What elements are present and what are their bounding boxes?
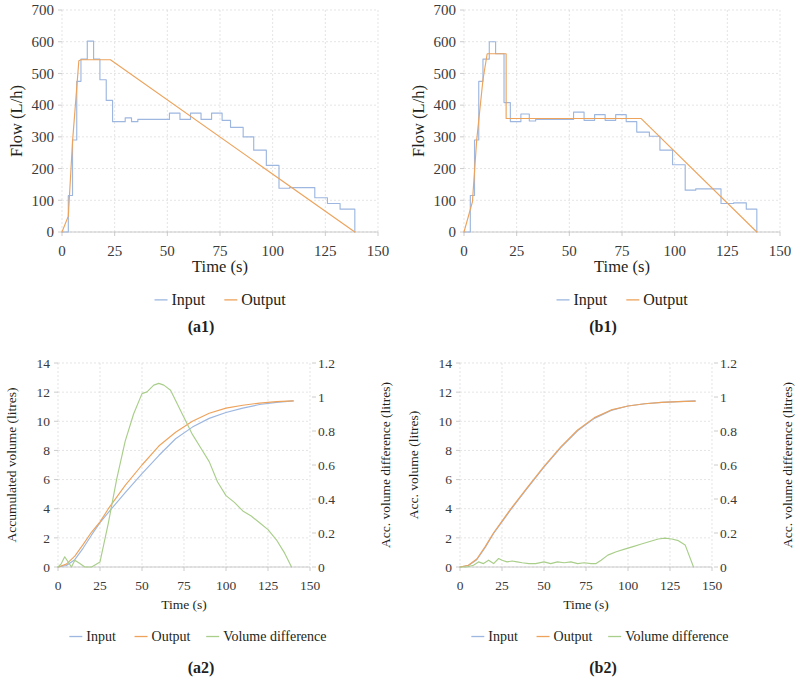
y-tick-label-left: 300 [434, 129, 457, 145]
x-tick-label: 125 [660, 578, 681, 593]
y-tick-label-left: 700 [32, 2, 55, 18]
y-tick-label-left: 4 [43, 501, 50, 516]
panel-caption-b1: (b1) [402, 318, 804, 336]
series-line-volume-difference [460, 538, 694, 567]
x-tick-label: 0 [457, 578, 464, 593]
y-tick-label-right: 0.4 [318, 492, 335, 507]
y-tick-label-left: 2 [43, 531, 50, 546]
x-tick-label: 125 [716, 243, 739, 259]
figure-four-panel: 01002003004005006007000255075100125150Ti… [0, 0, 804, 682]
series-line-input [58, 401, 293, 567]
legend-label-input: Input [172, 291, 206, 309]
legend-label-volume-difference: Volume difference [625, 629, 728, 644]
y-tick-label-right: 0.6 [720, 458, 737, 473]
y-axis-title-right: Acc. volume difference (litres) [780, 382, 795, 548]
x-tick-label: 50 [135, 578, 149, 593]
legend-a1: InputOutput [155, 291, 287, 309]
y-tick-label-left: 8 [445, 443, 452, 458]
y-tick-label-right: 0.2 [318, 526, 335, 541]
y-tick-label-right: 0.6 [318, 458, 335, 473]
y-tick-label-left: 400 [434, 97, 457, 113]
y-tick-label-left: 600 [434, 34, 457, 50]
y-tick-label-left: 14 [439, 356, 453, 371]
y-tick-label-right: 0.8 [720, 424, 737, 439]
legend-label-output: Output [554, 629, 593, 644]
chart-b2: 02468101214025507510012515000.20.40.60.8… [402, 341, 804, 659]
y-tick-label-left: 0 [43, 560, 50, 575]
legend-label-input: Input [488, 629, 518, 644]
y-tick-label-left: 400 [32, 97, 55, 113]
x-axis-title: Time (s) [563, 597, 609, 612]
y-axis-title-left: Accumulated volume (litres) [4, 387, 19, 542]
x-tick-label: 100 [618, 578, 639, 593]
y-tick-label-left: 500 [434, 66, 457, 82]
panel-a2: 02468101214025507510012515000.20.40.60.8… [0, 341, 402, 682]
y-tick-label-left: 100 [434, 193, 457, 209]
legend-label-output: Output [643, 291, 688, 309]
y-tick-label-right: 0.8 [318, 424, 335, 439]
y-tick-label-left: 8 [43, 443, 50, 458]
chart-a2: 02468101214025507510012515000.20.40.60.8… [0, 341, 402, 659]
y-tick-label-left: 700 [434, 2, 457, 18]
y-tick-label-left: 500 [32, 66, 55, 82]
y-tick-label-left: 4 [445, 501, 452, 516]
series-line-input [460, 401, 695, 567]
y-tick-label-left: 12 [439, 385, 453, 400]
y-tick-label-left: 6 [445, 472, 452, 487]
y-tick-label-right: 1 [318, 390, 325, 405]
x-axis-title: Time (s) [192, 257, 248, 276]
series-line-output [460, 401, 695, 567]
panel-a1: 01002003004005006007000255075100125150Ti… [0, 0, 402, 341]
legend-label-output: Output [241, 291, 286, 309]
x-tick-label: 100 [663, 243, 686, 259]
y-tick-label-right: 1.2 [720, 356, 737, 371]
x-axis-title: Time (s) [161, 597, 207, 612]
y-tick-label-right: 0.4 [720, 492, 737, 507]
y-tick-label-left: 10 [37, 414, 51, 429]
y-axis-title-left: Flow (L/h) [7, 85, 26, 157]
x-tick-label: 0 [55, 578, 62, 593]
chart-a1: 01002003004005006007000255075100125150Ti… [0, 0, 402, 318]
y-tick-label-left: 0 [47, 224, 55, 240]
legend-b1: InputOutput [557, 291, 689, 309]
y-tick-label-right: 1.2 [318, 356, 335, 371]
x-tick-label: 75 [177, 578, 191, 593]
y-tick-label-left: 10 [439, 414, 453, 429]
x-tick-label: 25 [495, 578, 509, 593]
y-tick-label-left: 0 [449, 224, 457, 240]
y-tick-label-right: 1 [720, 390, 727, 405]
legend-label-input: Input [86, 629, 116, 644]
x-tick-label: 0 [460, 243, 468, 259]
legend-b2: InputOutputVolume difference [471, 629, 728, 644]
x-tick-label: 25 [107, 243, 122, 259]
y-tick-label-right: 0.2 [720, 526, 737, 541]
x-axis-title: Time (s) [594, 257, 650, 276]
y-axis-title-right: Acc. volume difference (litres) [378, 382, 393, 548]
legend-label-volume-difference: Volume difference [223, 629, 326, 644]
x-tick-label: 125 [314, 243, 337, 259]
panel-caption-a1: (a1) [0, 318, 402, 336]
x-tick-label: 150 [300, 578, 321, 593]
y-tick-label-left: 100 [32, 193, 55, 209]
y-tick-label-left: 0 [445, 560, 452, 575]
panel-caption-a2: (a2) [0, 659, 402, 677]
panel-b2: 02468101214025507510012515000.20.40.60.8… [402, 341, 804, 682]
y-tick-label-left: 2 [445, 531, 452, 546]
x-tick-label: 150 [769, 243, 792, 259]
x-tick-label: 0 [58, 243, 66, 259]
series-line-output [58, 401, 293, 567]
x-tick-label: 50 [537, 578, 551, 593]
y-tick-label-left: 12 [37, 385, 51, 400]
x-tick-label: 25 [509, 243, 524, 259]
y-tick-label-left: 200 [32, 161, 55, 177]
y-tick-label-left: 6 [43, 472, 50, 487]
y-tick-label-right: 0 [318, 560, 325, 575]
y-tick-label-left: 14 [37, 356, 51, 371]
legend-a2: InputOutputVolume difference [69, 629, 326, 644]
x-tick-label: 25 [93, 578, 107, 593]
y-tick-label-left: 200 [434, 161, 457, 177]
x-tick-label: 50 [562, 243, 577, 259]
x-tick-label: 50 [160, 243, 175, 259]
x-tick-label: 125 [258, 578, 279, 593]
y-tick-label-left: 300 [32, 129, 55, 145]
